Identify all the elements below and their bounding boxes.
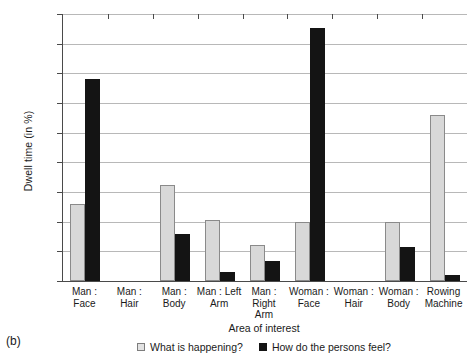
y-tick (57, 222, 63, 223)
bar (175, 234, 190, 281)
gridline (63, 162, 467, 163)
gridline (63, 133, 467, 134)
x-axis-label: Woman :Hair (331, 286, 376, 309)
x-tick (153, 14, 154, 19)
x-axis-label-line: Body (376, 298, 421, 310)
bar (205, 220, 220, 281)
gridline (63, 192, 467, 193)
x-axis-label-line: Hair (331, 298, 376, 310)
x-tick (332, 14, 333, 19)
panel-caption: (b) (6, 334, 21, 348)
x-axis-label-line: Face (286, 298, 331, 310)
x-axis-label-line: Woman : (286, 286, 331, 298)
x-axis-label-line: Man : Hair (107, 286, 152, 309)
gridline (63, 14, 467, 15)
legend-label: How do the persons feel? (272, 341, 391, 353)
x-axis-label-line: Man : Body (152, 286, 197, 309)
bar (85, 79, 100, 281)
gridline (63, 44, 467, 45)
bar (220, 272, 235, 281)
x-axis-label-line: Rowing (421, 286, 466, 298)
x-axis-label-line: Man : Right (242, 286, 287, 309)
legend-entry: How do the persons feel? (259, 341, 391, 353)
y-tick (57, 192, 63, 193)
legend-entry: What is happening? (137, 341, 243, 353)
legend-swatch-icon (137, 343, 145, 351)
x-axis-label: RowingMachine (421, 286, 466, 309)
bar (70, 204, 85, 281)
x-axis-label: Woman :Body (376, 286, 421, 309)
bar (385, 222, 400, 281)
y-tick (57, 103, 63, 104)
legend-swatch-icon (259, 343, 267, 351)
x-tick (377, 14, 378, 19)
bar (250, 245, 265, 281)
gridline (63, 103, 467, 104)
legend-label: What is happening? (150, 341, 243, 353)
bar (295, 222, 310, 281)
x-axis-label: Man : Face (62, 286, 107, 309)
x-axis-label-line: Man : Left (197, 286, 242, 298)
x-axis-label-line: Woman : (376, 286, 421, 298)
x-tick (243, 14, 244, 19)
x-tick (108, 14, 109, 19)
y-tick (57, 133, 63, 134)
y-tick (57, 44, 63, 45)
y-tick (57, 281, 63, 282)
x-axis-category-labels: Man : FaceMan : HairMan : BodyMan : Left… (62, 286, 466, 320)
x-tick (287, 14, 288, 19)
y-tick (57, 73, 63, 74)
x-tick (198, 14, 199, 19)
bar-chart-figure: Dwell time (in %) 051015202530354045 Man… (0, 0, 473, 361)
y-tick (57, 14, 63, 15)
x-axis-label: Woman :Face (286, 286, 331, 309)
x-axis-label-line: Arm (197, 298, 242, 310)
x-axis-label-line: Arm (242, 309, 287, 321)
x-tick (422, 14, 423, 19)
x-axis-label: Man : Hair (107, 286, 152, 309)
x-axis-label: Man : Body (152, 286, 197, 309)
x-axis-label-line: Machine (421, 298, 466, 310)
chart-legend: What is happening?How do the persons fee… (62, 341, 466, 353)
bar (160, 185, 175, 281)
gridline (63, 73, 467, 74)
plot-area: 051015202530354045 (62, 14, 467, 282)
y-axis-title: Dwell time (in %) (22, 61, 34, 241)
bar (445, 275, 460, 281)
x-axis-label-line: Woman : (331, 286, 376, 298)
bar (265, 261, 280, 281)
y-tick (57, 251, 63, 252)
bar (310, 28, 325, 281)
bar (400, 247, 415, 281)
x-axis-label: Man : RightArm (242, 286, 287, 321)
x-axis-label: Man : LeftArm (197, 286, 242, 309)
gridline (63, 222, 467, 223)
bar (430, 115, 445, 281)
y-tick (57, 162, 63, 163)
x-axis-title: Area of interest (62, 322, 466, 334)
x-axis-label-line: Man : Face (62, 286, 107, 309)
